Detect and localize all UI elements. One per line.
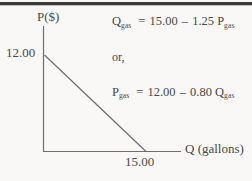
eq2-rhs-subscript: gas [224, 91, 234, 100]
y-axis-title: P($) [37, 10, 59, 23]
eq2-lhs-variable: P [112, 85, 119, 99]
eq2-slope: 0.80 [190, 85, 212, 99]
equations-block: Qgas= 15.00 – 1.25 Pgas or, Pgas= 12.00 … [112, 13, 252, 98]
eq2-intercept: 12.00 [147, 85, 175, 99]
x-axis-title: Q (gallons) [185, 142, 244, 155]
eq2-equals: = [135, 85, 144, 99]
eq2-rhs-variable: Q [215, 85, 224, 99]
equation-price: Pgas= 12.00 – 0.80 Qgas [112, 86, 252, 99]
y-intercept-tick-label: 12.00 [6, 46, 35, 59]
eq1-equals: = [137, 14, 146, 28]
equation-connector: or, [112, 51, 252, 63]
x-intercept-tick-label: 15.00 [125, 155, 154, 168]
figure-container: P($) 12.00 15.00 Q (gallons) Qgas= 15.00… [0, 0, 252, 181]
eq2-lhs-subscript: gas [119, 91, 129, 100]
eq1-intercept: 15.00 [150, 14, 178, 28]
eq1-lhs-variable: Q [112, 14, 121, 28]
equation-quantity: Qgas= 15.00 – 1.25 Pgas [112, 15, 252, 28]
eq2-minus: – [179, 85, 187, 99]
eq1-lhs-subscript: gas [121, 21, 131, 30]
eq1-minus: – [181, 14, 189, 28]
eq1-rhs-subscript: gas [224, 21, 234, 30]
eq1-slope: 1.25 [192, 14, 214, 28]
